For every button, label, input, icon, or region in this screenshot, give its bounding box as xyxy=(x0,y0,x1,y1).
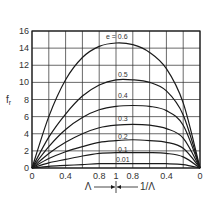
curve-label: 0.4 xyxy=(118,92,128,99)
curve-label: 0.5 xyxy=(118,71,128,78)
chart: 0246810121416 00.40.810.80.40 e = 0.60.5… xyxy=(0,0,212,203)
y-tick-label: 4 xyxy=(24,129,29,139)
y-tick-label: 16 xyxy=(19,26,29,36)
y-tick-label: 10 xyxy=(19,77,29,87)
curve-label: 0.3 xyxy=(118,115,128,122)
y-tick-label: 2 xyxy=(24,146,29,156)
x-axis-ticks: 00.40.810.80.40 xyxy=(29,171,202,181)
x-tick-label: 0 xyxy=(29,171,34,181)
x-tick-label: 0.4 xyxy=(160,171,173,181)
x-axis-label-inverse-lambda: 1/Λ xyxy=(140,181,155,192)
y-tick-label: 14 xyxy=(19,43,29,53)
x-tick-label: 0 xyxy=(197,171,202,181)
curve-label: e = 0.6 xyxy=(106,33,128,40)
x-tick-label: 0.4 xyxy=(59,171,72,181)
x-tick-label: 0.8 xyxy=(93,171,106,181)
y-tick-label: 8 xyxy=(24,95,29,105)
curve-label: 0.1 xyxy=(118,146,128,153)
y-tick-label: 6 xyxy=(24,112,29,122)
y-axis-label-sub: r xyxy=(9,99,12,106)
y-axis-ticks: 0246810121416 xyxy=(19,26,29,173)
x-tick-label-center: 1 xyxy=(113,171,118,181)
y-axis-label: fr xyxy=(6,94,12,106)
curve-labels: e = 0.60.50.40.30.20.10.01 xyxy=(106,33,130,163)
arrowhead-right-icon xyxy=(111,185,115,189)
plot-area: 0246810121416 00.40.810.80.40 e = 0.60.5… xyxy=(0,0,212,203)
x-axis-label-lambda: Λ xyxy=(85,181,92,192)
y-tick-label: 0 xyxy=(24,163,29,173)
x-tick-label: 0.8 xyxy=(127,171,140,181)
arrowhead-left-icon xyxy=(117,185,121,189)
x-axis-direction-labels: Λ1/Λ xyxy=(85,181,156,193)
curve-label: 0.01 xyxy=(116,156,130,163)
curve-label: 0.2 xyxy=(118,133,128,140)
y-tick-label: 12 xyxy=(19,60,29,70)
